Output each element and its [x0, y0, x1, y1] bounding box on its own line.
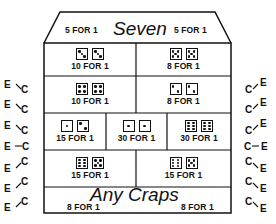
- die-face-1-icon: [123, 120, 135, 132]
- right-e-label[interactable]: E: [260, 77, 267, 88]
- die-face-6-icon: [185, 120, 197, 132]
- seven-left-odds: 5 FOR 1: [65, 25, 98, 35]
- right-c-label[interactable]: C: [245, 84, 252, 95]
- die-face-5-icon: [186, 157, 198, 169]
- any-craps-bet[interactable]: Any Craps 8 FOR 1 8 FOR 1: [45, 188, 230, 213]
- die-face-3-icon: [76, 48, 88, 60]
- payout-odds: 8 FOR 1: [167, 96, 200, 106]
- dice-bet-cell[interactable]: 15 FOR 1: [44, 150, 136, 187]
- left-e-label[interactable]: E: [4, 141, 11, 152]
- dice-pair: [76, 48, 104, 60]
- payout-odds: 8 FOR 1: [167, 61, 200, 71]
- die-face-5-icon: [170, 48, 182, 60]
- dice-bet-cell[interactable]: 8 FOR 1: [136, 43, 231, 76]
- payout-odds: 15 FOR 1: [165, 170, 203, 180]
- right-e-label[interactable]: E: [260, 118, 267, 129]
- die-face-3-icon: [92, 48, 104, 60]
- dice-pair: [76, 157, 104, 169]
- dice-bet-cell[interactable]: 10 FOR 1: [44, 76, 136, 113]
- left-e-label[interactable]: E: [4, 99, 11, 110]
- left-e-label[interactable]: E: [4, 79, 11, 90]
- dice-pair: [185, 120, 213, 132]
- dice-bet-cell[interactable]: 8 FOR 1: [136, 76, 231, 113]
- right-c-label[interactable]: C: [245, 156, 252, 167]
- left-c-label[interactable]: C: [22, 141, 29, 152]
- right-e-label[interactable]: E: [260, 163, 267, 174]
- left-c-label[interactable]: C: [21, 104, 28, 115]
- dice-pair: [61, 120, 89, 132]
- dice-bet-cell[interactable]: 15 FOR 1: [136, 150, 231, 187]
- payout-odds: 10 FOR 1: [71, 96, 109, 106]
- left-c-label[interactable]: C: [21, 125, 28, 136]
- payout-odds: 15 FOR 1: [71, 170, 109, 180]
- right-e-label[interactable]: E: [260, 183, 267, 194]
- right-e-label[interactable]: E: [260, 97, 267, 108]
- die-face-2-icon: [170, 83, 182, 95]
- right-e-label[interactable]: E: [261, 141, 268, 152]
- dice-pair: [170, 48, 198, 60]
- right-e-label[interactable]: E: [260, 203, 267, 214]
- dice-pair: [76, 83, 104, 95]
- die-face-5-icon: [186, 48, 198, 60]
- seven-title: Seven: [113, 18, 167, 40]
- any-craps-right-odds: 8 FOR 1: [181, 202, 214, 212]
- left-e-label[interactable]: E: [4, 202, 11, 213]
- left-c-label[interactable]: C: [21, 156, 28, 167]
- payout-odds: 15 FOR 1: [56, 133, 94, 143]
- right-c-label[interactable]: C: [245, 104, 252, 115]
- right-c-label[interactable]: C: [245, 176, 252, 187]
- right-c-label[interactable]: C: [245, 125, 252, 136]
- die-face-6-icon: [201, 120, 213, 132]
- dice-pair: [170, 83, 198, 95]
- die-face-1-icon: [139, 120, 151, 132]
- dice-bet-cell[interactable]: 15 FOR 1: [44, 113, 106, 150]
- die-face-1-icon: [61, 120, 73, 132]
- payout-odds: 30 FOR 1: [180, 133, 218, 143]
- die-face-4-icon: [92, 83, 104, 95]
- die-face-2-icon: [186, 83, 198, 95]
- payout-odds: 10 FOR 1: [71, 61, 109, 71]
- dice-bet-cell[interactable]: 10 FOR 1: [44, 43, 136, 76]
- dice-pair: [170, 157, 198, 169]
- left-e-label[interactable]: E: [4, 163, 11, 174]
- dice-bet-cell[interactable]: 30 FOR 1: [106, 113, 167, 150]
- right-c-label[interactable]: C: [245, 196, 252, 207]
- left-c-label[interactable]: C: [21, 84, 28, 95]
- die-face-6-icon: [170, 157, 182, 169]
- any-craps-left-odds: 8 FOR 1: [67, 202, 100, 212]
- left-c-label[interactable]: C: [21, 176, 28, 187]
- die-face-5-icon: [92, 157, 104, 169]
- seven-right-odds: 5 FOR 1: [174, 25, 207, 35]
- die-face-4-icon: [76, 83, 88, 95]
- left-e-label[interactable]: E: [4, 120, 11, 131]
- payout-odds: 30 FOR 1: [118, 133, 156, 143]
- any-craps-title: Any Craps: [90, 184, 179, 206]
- die-face-6-icon: [76, 157, 88, 169]
- die-face-2-icon: [77, 120, 89, 132]
- dice-bet-cell[interactable]: 30 FOR 1: [167, 113, 231, 150]
- left-e-label[interactable]: E: [4, 183, 11, 194]
- dice-pair: [123, 120, 151, 132]
- right-c-label[interactable]: C: [244, 141, 251, 152]
- seven-bet[interactable]: 5 FOR 1 Seven 5 FOR 1: [60, 13, 215, 43]
- left-c-label[interactable]: C: [21, 196, 28, 207]
